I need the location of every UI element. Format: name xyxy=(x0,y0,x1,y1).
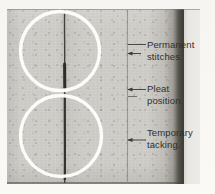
highlight-circle-top xyxy=(21,12,100,91)
label-temporary-tacking-line1: Temporary xyxy=(147,127,193,138)
label-temporary-tacking: Temporary tacking. xyxy=(147,127,213,150)
label-pleat-position-line1: Pleat xyxy=(147,83,169,94)
label-temporary-tacking-line2: tacking. xyxy=(147,139,181,150)
label-permanent-stitches: Permanent stitches. xyxy=(147,39,213,62)
leader-arrow-permanent xyxy=(127,52,132,56)
figure-canvas: Permanent stitches. Pleat position. Temp… xyxy=(0,0,215,194)
leader-arrow-pleat xyxy=(127,88,132,92)
label-pleat-position-line2: position. xyxy=(147,95,183,106)
highlight-circle-bottom xyxy=(21,96,102,177)
label-pleat-position: Pleat position. xyxy=(147,83,213,106)
label-permanent-stitches-line1: Permanent xyxy=(147,39,194,50)
leader-arrow-temporary xyxy=(127,138,132,142)
label-permanent-stitches-line2: stitches. xyxy=(147,51,183,62)
